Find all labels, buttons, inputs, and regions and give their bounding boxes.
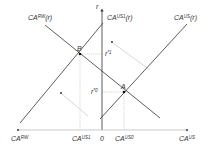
ca-diagram: r CARW(r) CAUS1(r) CAUS(r) B A r*1 r*0 C… [0,0,211,150]
label-ca-rw: CARW(r) [28,14,52,23]
point-a [123,91,126,94]
label-point-b: B [77,45,82,52]
label-ca-us: CAUS(r) [174,14,197,23]
point-b [79,53,82,56]
shift-arrow-lower [62,94,88,116]
arrow-head-upper [111,41,113,43]
label-axis-ca-rw: CARW [11,135,29,143]
axis-r-label: r [96,3,99,10]
label-point-a: A [120,83,126,90]
arrow-head-lower [60,92,62,94]
shift-arrow-upper [113,43,150,70]
label-tick-ca-us1: CAUS1 [72,135,91,143]
label-origin: 0 [100,135,104,142]
label-tick-ca-us0: CAUS0 [115,135,134,143]
label-r0: r*0 [91,88,98,96]
label-axis-ca-us: CAUS [179,135,195,143]
label-r1: r*1 [105,50,112,58]
label-ca-us1: CAUS1(r) [107,14,133,23]
